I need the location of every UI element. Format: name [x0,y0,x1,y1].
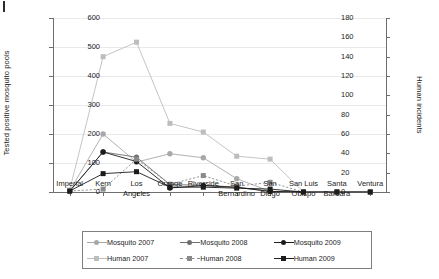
legend-item-mosquito-2008[interactable]: Mosquito 2008 [180,237,273,247]
y-axis-right-tick-label: 100 [341,90,375,99]
legend-key-marker [187,240,192,245]
plot-area [53,18,387,193]
legend-label: Mosquito 2007 [107,238,154,247]
y-axis-left-tick-label: 200 [66,129,100,138]
y-axis-left-tick-label: 100 [66,158,100,167]
legend-item-human-2008[interactable]: Human 2008 [180,253,273,263]
legend-key-marker [281,256,286,261]
y-axis-right-tick-label: 120 [341,71,375,80]
legend-marker-mosquito-2009 [274,237,294,247]
data-point [100,131,105,136]
y-axis-right-tick-label: 80 [341,110,375,119]
data-point [167,151,172,156]
legend-marker-human-2009 [274,253,294,263]
legend-key-marker [187,256,192,261]
y-axis-right-tick-label: 160 [341,32,375,41]
y-axis-left-tick-label: 500 [66,42,100,51]
chart-figure: Tested positive mosquito pools Human inc… [0,0,439,279]
legend-item-mosquito-2007[interactable]: Mosquito 2007 [87,237,180,247]
y-axis-left-title: Tested positive mosquito pools [2,18,16,188]
data-point [134,169,139,174]
series-layer [53,18,387,193]
legend-item-mosquito-2009[interactable]: Mosquito 2009 [274,237,367,247]
x-axis-tick-label: Ventura [335,179,405,189]
data-point [201,130,206,135]
y-axis-left-tick-label: 300 [66,100,100,109]
data-point [201,155,206,160]
y-axis-right-title: Human incidents [410,40,424,170]
y-axis-right-tick-label: 40 [341,148,375,157]
data-point [101,171,106,176]
y-axis-right-tick-label: 140 [341,52,375,61]
legend-label: Mosquito 2009 [294,238,341,247]
legend-label: Human 2007 [107,254,148,263]
legend-marker-mosquito-2007 [87,237,107,247]
series-human-2007 [67,40,373,195]
legend-marker-human-2008 [180,253,200,263]
legend-item-human-2009[interactable]: Human 2009 [274,253,367,263]
legend-item-human-2007[interactable]: Human 2007 [87,253,180,263]
data-point [201,173,206,178]
y-axis-left-tick-label: 600 [66,13,100,22]
legend-key-marker [94,240,99,245]
legend-row-mosquito: Mosquito 2007 Mosquito 2008 Mosquito 200… [87,234,367,250]
legend-key-marker [281,240,286,245]
series-line [70,42,371,192]
legend-label: Human 2008 [200,254,241,263]
y-axis-right-tick-label: 60 [341,129,375,138]
y-axis-right-tick-label: 20 [341,168,375,177]
legend-row-human: Human 2007 Human 2008 Human 2009 [87,250,367,266]
legend-marker-human-2007 [87,253,107,263]
legend-label: Mosquito 2008 [200,238,247,247]
data-point [268,157,273,162]
crop-corner-mark [3,1,5,12]
y-axis-right-tick-label: 180 [341,13,375,22]
y-axis-left-tick-label: 400 [66,71,100,80]
legend-marker-mosquito-2008 [180,237,200,247]
legend-key-marker [94,256,99,261]
data-point [100,149,105,154]
chart-legend: Mosquito 2007 Mosquito 2008 Mosquito 200… [82,231,372,269]
legend-label: Human 2009 [294,254,335,263]
data-point [134,40,139,45]
data-point [101,54,106,59]
data-point [134,157,139,162]
data-point [234,154,239,159]
data-point [167,121,172,126]
